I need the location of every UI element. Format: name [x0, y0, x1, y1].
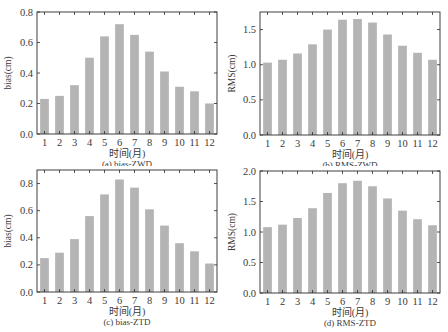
bar-month-8: [145, 209, 154, 292]
y-tick-label: 0.0: [20, 287, 33, 298]
y-tick-label: 0.8: [20, 7, 33, 18]
x-axis: 123456789101112: [42, 170, 215, 306]
x-tick-label: 7: [132, 295, 137, 306]
y-axis-label: RMS(cm): [227, 55, 238, 93]
x-tick-label: 4: [87, 137, 93, 148]
bar-month-5: [100, 36, 109, 134]
bar-month-3: [293, 218, 302, 293]
x-tick-label: 3: [72, 137, 77, 148]
bar-month-1: [263, 227, 272, 293]
x-tick-label: 2: [280, 296, 285, 307]
x-tick-label: 7: [355, 138, 360, 149]
y-tick-label: 1.0: [243, 227, 256, 238]
chart-panel-b: 0.00.51.01.5123456789101112时间(月)(b) RMS-…: [224, 0, 448, 166]
bar-month-4: [308, 44, 317, 135]
bar-chart-d: 0.00.51.01.52.0123456789101112时间(月)(d) R…: [224, 166, 448, 332]
bar-month-8: [368, 23, 377, 135]
bar-month-9: [383, 34, 392, 135]
bar-month-2: [55, 253, 64, 292]
bar-month-4: [308, 208, 317, 293]
bar-month-6: [115, 24, 124, 134]
x-tick-label: 1: [265, 296, 270, 307]
chart-panel-d: 0.00.51.01.52.0123456789101112时间(月)(d) R…: [224, 166, 448, 332]
x-tick-label: 8: [147, 137, 152, 148]
y-axis-label: RMS(cm): [227, 213, 238, 251]
y-tick-label: 0.2: [20, 98, 33, 109]
x-tick-label: 6: [340, 296, 345, 307]
bar-month-6: [338, 183, 347, 293]
y-tick-label: 1.0: [243, 59, 256, 70]
bar-month-1: [40, 99, 49, 134]
x-tick-label: 8: [370, 296, 375, 307]
chart-caption: (c) bias-ZTD: [103, 317, 151, 327]
bar-month-3: [293, 53, 302, 135]
x-tick-label: 9: [385, 138, 390, 149]
bar-month-9: [160, 226, 169, 292]
bar-month-12: [205, 264, 214, 292]
plot-frame: [37, 12, 217, 134]
bar-month-12: [428, 60, 437, 135]
bar-month-3: [70, 239, 79, 292]
bar-month-4: [85, 216, 94, 292]
bar-month-2: [55, 96, 64, 134]
x-tick-label: 2: [280, 138, 285, 149]
x-tick-label: 11: [189, 137, 199, 148]
y-tick-label: 0.4: [20, 232, 34, 243]
x-tick-label: 1: [42, 137, 47, 148]
bar-month-11: [190, 251, 199, 292]
x-tick-label: 2: [57, 137, 62, 148]
bar-month-8: [145, 52, 154, 134]
bar-month-1: [263, 63, 272, 135]
y-tick-label: 1.5: [243, 196, 256, 207]
x-tick-label: 5: [325, 138, 330, 149]
x-tick-label: 4: [310, 296, 316, 307]
bar-series: [40, 179, 214, 292]
x-tick-label: 10: [174, 137, 185, 148]
bar-month-3: [70, 85, 79, 134]
y-axis-label: bias(cm): [3, 214, 14, 247]
x-tick-label: 7: [355, 296, 360, 307]
bar-chart-b: 0.00.51.01.5123456789101112时间(月)(b) RMS-…: [224, 0, 448, 166]
y-tick-label: 0.0: [20, 129, 33, 140]
y-tick-label: 0.0: [243, 130, 256, 141]
x-tick-label: 10: [397, 138, 408, 149]
bar-series: [263, 181, 437, 293]
bar-month-2: [278, 225, 287, 293]
x-tick-label: 3: [295, 138, 300, 149]
bar-month-10: [398, 46, 407, 135]
x-tick-label: 12: [427, 138, 438, 149]
chart-caption: (d) RMS-ZTD: [324, 318, 377, 328]
x-tick-label: 1: [42, 295, 47, 306]
y-tick-label: 0.6: [20, 37, 33, 48]
bar-month-6: [338, 20, 347, 135]
x-tick-label: 1: [265, 138, 270, 149]
bar-month-9: [160, 71, 169, 134]
bar-month-11: [190, 91, 199, 134]
bar-month-10: [175, 87, 184, 134]
bar-month-2: [278, 60, 287, 135]
x-tick-label: 3: [72, 295, 77, 306]
bar-month-12: [428, 225, 437, 293]
bar-month-4: [85, 58, 94, 134]
bar-month-5: [323, 30, 332, 135]
x-tick-label: 9: [162, 295, 167, 306]
plot-frame: [260, 12, 440, 135]
y-tick-label: 0.5: [243, 257, 256, 268]
chart-panel-a: 0.00.20.40.60.8123456789101112时间(月)(a) b…: [0, 0, 224, 166]
x-tick-label: 4: [87, 295, 93, 306]
bar-month-7: [353, 19, 362, 135]
bar-series: [263, 19, 437, 135]
bar-chart-c: 0.00.20.40.60.8123456789101112时间(月)(c) b…: [0, 166, 224, 332]
y-tick-label: 0.6: [20, 205, 33, 216]
y-tick-label: 0.5: [243, 94, 256, 105]
x-tick-label: 4: [310, 138, 316, 149]
bar-month-12: [205, 104, 214, 135]
x-tick-label: 6: [117, 137, 122, 148]
bar-month-5: [323, 193, 332, 293]
x-tick-label: 6: [340, 138, 345, 149]
y-tick-label: 1.5: [243, 24, 256, 35]
bar-month-10: [398, 211, 407, 293]
bar-month-7: [353, 181, 362, 293]
x-tick-label: 10: [174, 295, 185, 306]
bar-month-11: [413, 219, 422, 293]
